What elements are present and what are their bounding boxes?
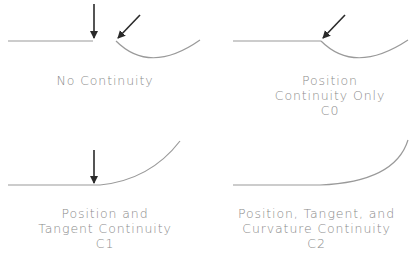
label-line: Tangent Continuity [5,221,205,236]
arrow-diagonal-icon [118,15,140,38]
label-c0: Position Continuity Only C0 [240,73,420,118]
label-line: Position [240,73,420,88]
label-line: Position and [5,206,205,221]
continuity-code: C2 [213,236,420,251]
continuity-diagram: No Continuity Position Continuity Only C… [0,0,420,260]
curve-segment [100,141,180,185]
label-c2: Position, Tangent, and Curvature Continu… [213,206,420,251]
panel-c2-graphic [233,140,408,185]
label-line: Curvature Continuity [213,221,420,236]
label-line: Position, Tangent, and [213,206,420,221]
curve-segment [233,140,408,185]
label-c1: Position and Tangent Continuity C1 [5,206,205,251]
panel-no-continuity-graphic [8,4,200,58]
arrow-diagonal-icon [323,15,345,38]
panel-c0-graphic [233,15,408,58]
label-line: No Continuity [30,73,180,88]
panel-c1-graphic [8,141,180,185]
continuity-code: C0 [240,103,420,118]
label-no-continuity: No Continuity [30,73,180,88]
arc-segment [116,40,200,58]
continuity-code: C1 [5,236,205,251]
arc-segment [321,40,408,58]
label-line: Continuity Only [240,88,420,103]
